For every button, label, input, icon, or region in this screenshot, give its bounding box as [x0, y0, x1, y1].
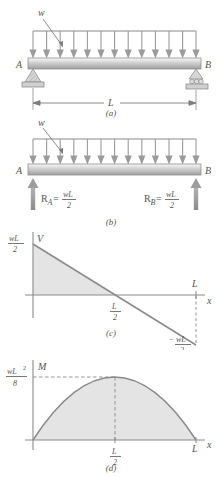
- shear-xtick-half-denominator: 2: [113, 313, 117, 322]
- span-label: L: [107, 97, 114, 108]
- reaction-b-label: R B = wL 2: [144, 190, 179, 210]
- load-label-a: w: [38, 7, 45, 18]
- moment-xtick-half-numerator: L: [111, 447, 117, 456]
- shear-max-numerator: wL: [9, 234, 19, 243]
- beam-body-b: [28, 164, 201, 175]
- caption-a: (a): [0, 108, 222, 118]
- load-label-b: w: [38, 118, 45, 128]
- support-b-label-b: B: [205, 165, 211, 176]
- reaction-a-denominator: 2: [67, 201, 71, 210]
- reaction-b-equals: =: [156, 193, 162, 204]
- support-a-label: A: [15, 59, 23, 70]
- shear-xtick-half-L: L 2: [110, 302, 121, 322]
- shear-x-axis-label: x: [206, 295, 212, 306]
- panel-moment-diagram: M x wL 2 8 L 2 L (d): [0, 350, 222, 477]
- support-b-label: B: [205, 59, 211, 70]
- moment-max-value-label: wL 2 8: [6, 365, 27, 388]
- reaction-a-numerator: wL: [63, 190, 73, 199]
- shear-max-denominator: 2: [13, 245, 17, 254]
- moment-max-numerator: wL: [7, 367, 17, 376]
- moment-max-denominator: 8: [13, 379, 17, 388]
- moment-y-axis-label: M: [37, 361, 47, 372]
- roller-support-b: [186, 69, 208, 89]
- reaction-b-denominator: 2: [170, 201, 174, 210]
- load-arrows: [30, 31, 199, 57]
- caption-b: (b): [0, 217, 222, 227]
- moment-max-exponent: 2: [23, 365, 26, 371]
- beam-body: [28, 58, 201, 69]
- shear-y-axis-label: V: [37, 233, 45, 244]
- panel-shear-diagram: V x wL 2 − wL 2 L 2 L (c): [0, 230, 222, 350]
- shear-max-value-label: wL 2: [8, 234, 24, 254]
- load-arrows-b: [30, 139, 199, 163]
- pin-support-a: [22, 69, 44, 87]
- moment-xtick-L-label: L: [191, 443, 198, 454]
- panel-free-body-diagram: w A B R A = wL 2 R B = wL: [0, 118, 222, 230]
- caption-d: (d): [0, 463, 222, 473]
- reaction-b-subscript: B: [151, 198, 156, 207]
- loaded-beam-drawing: w A B L: [0, 0, 222, 118]
- moment-x-axis-label: x: [206, 439, 212, 450]
- shear-xtick-half-numerator: L: [111, 302, 117, 311]
- reaction-arrow-b: [191, 178, 202, 210]
- panel-loaded-beam: w A B L: [0, 0, 222, 118]
- reaction-a-equals: =: [53, 193, 59, 204]
- reaction-arrow-a: [28, 178, 39, 210]
- support-a-label-b: A: [15, 165, 23, 176]
- reaction-a-subscript: A: [47, 198, 53, 207]
- reaction-b-numerator: wL: [166, 190, 176, 199]
- shear-xtick-L-label: L: [191, 278, 198, 289]
- reaction-a-label: R A = wL 2: [41, 190, 76, 210]
- fbd-drawing: w A B R A = wL 2 R B = wL: [0, 118, 222, 230]
- caption-c: (c): [0, 328, 222, 338]
- moment-diagram-plot: M x wL 2 8 L 2 L: [0, 350, 222, 477]
